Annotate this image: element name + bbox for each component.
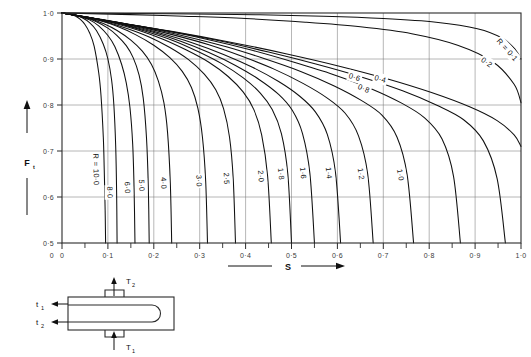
y-axis-tick-label: 0·6 — [43, 194, 54, 201]
ft-correction-chart: R = 10·08·06·05·04·03·02·52·01·81·61·41·… — [0, 0, 531, 357]
x-axis-tick-label: 0·9 — [470, 252, 481, 259]
curve-label-R-10: R = 10·0 — [90, 152, 102, 187]
curve-label-R-2: 2·0 — [255, 169, 267, 184]
origin-tick-label: 0 — [50, 252, 54, 259]
x-axis-tick-label: 0·3 — [194, 252, 205, 259]
curve-label-text: 3·0 — [194, 175, 204, 187]
y-axis-title-subscript: t — [33, 164, 35, 170]
curve-label-R-8: 8·0 — [105, 185, 116, 200]
curve-label-text: 1·8 — [276, 168, 286, 181]
x-axis-tick-label: 0·5 — [286, 252, 297, 259]
curve-label-R-1: 1·0 — [394, 167, 407, 183]
x-axis-tick-label: 1·0 — [515, 252, 526, 259]
y-axis-title: F — [24, 158, 30, 168]
y-axis-tick-label: 0·7 — [43, 148, 54, 155]
x-axis-title: S — [285, 262, 291, 272]
curve-label-R-2-5: 2·5 — [221, 171, 233, 186]
curve-label-text: 1·0 — [395, 168, 406, 181]
x-axis-tick-label: 0 — [60, 252, 64, 259]
curve-label-R-5: 5·0 — [136, 178, 147, 193]
x-axis-tick-label: 0·4 — [240, 252, 251, 259]
figure-root: R = 10·08·06·05·04·03·02·52·01·81·61·41·… — [0, 0, 531, 357]
curve-label-text: 8·0 — [105, 186, 114, 198]
curve-label-text: 6·0 — [123, 182, 132, 194]
curve-label-text: 5·0 — [137, 179, 146, 191]
curve-label-text: 1·4 — [324, 167, 334, 180]
label-T2-subscript: 2 — [132, 282, 135, 288]
curve-label-R-1-4: 1·4 — [323, 165, 336, 181]
x-axis-tick-label: 0·1 — [102, 252, 113, 259]
curve-label-text: 2·5 — [222, 172, 232, 185]
curve-label-text: 1·6 — [298, 167, 308, 180]
label-t2-subscript: 2 — [41, 323, 44, 329]
curve-label-R-6: 6·0 — [122, 180, 133, 195]
curve-label-text: 2·0 — [256, 170, 266, 183]
x-axis-tick-label: 0·2 — [148, 252, 159, 259]
label-t1-subscript: 1 — [41, 305, 44, 311]
y-axis-tick-label: 1·0 — [43, 10, 54, 17]
curve-label-R-4: 4·0 — [158, 176, 170, 191]
y-axis-tick-label: 0·9 — [43, 56, 54, 63]
curve-label-R-1-8: 1·8 — [275, 166, 287, 181]
y-axis-tick-label: 0·8 — [43, 102, 54, 109]
x-axis-tick-label: 0·6 — [332, 252, 343, 259]
curve-label-text: 1·2 — [356, 167, 367, 180]
x-axis-tick-label: 0·7 — [378, 252, 389, 259]
curve-label-text: R = 10·0 — [91, 153, 101, 185]
label-T1-subscript: 1 — [132, 348, 135, 354]
x-axis-tick-label: 0·8 — [424, 252, 435, 259]
curve-label-R-3: 3·0 — [193, 173, 205, 188]
curve-label-text: 4·0 — [159, 177, 168, 189]
label-T2: T — [126, 277, 131, 286]
curve-label-R-1-2: 1·2 — [355, 166, 368, 182]
y-axis-tick-label: 0·5 — [43, 240, 54, 247]
curve-label-R-1-6: 1·6 — [297, 165, 309, 181]
label-T1: T — [126, 343, 131, 352]
